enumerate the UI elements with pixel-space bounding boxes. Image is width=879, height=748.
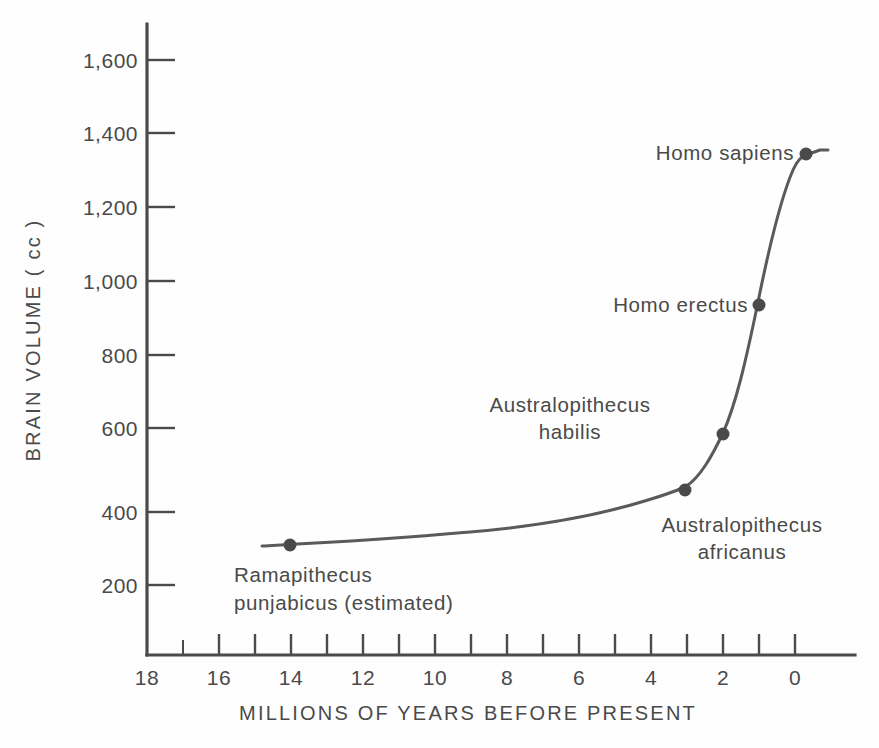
data-point-homo-sapiens [800, 148, 813, 161]
x-tick-label-18: 18 [135, 666, 159, 689]
x-tick-label-14: 14 [279, 666, 303, 689]
data-point-homo-erectus [753, 299, 766, 312]
brain-volume-curve [262, 150, 828, 546]
annotation-ramapithecus: Ramapithecus punjabicus (estimated) [234, 563, 453, 614]
y-tick-label-1400: 1,400 [83, 122, 138, 145]
data-point-markers [284, 148, 813, 552]
x-tick-label-12: 12 [351, 666, 375, 689]
annotation-australopithecus-africanus: Australopithecus africanus [661, 513, 822, 563]
x-axis-ticks [183, 634, 795, 655]
y-tick-label-1200: 1,200 [83, 196, 138, 219]
annotation-ramapithecus-line2: punjabicus (estimated) [234, 591, 453, 614]
data-point-australopithecus-africanus [679, 484, 692, 497]
y-tick-label-600: 600 [101, 417, 138, 440]
x-tick-label-2: 2 [717, 666, 729, 689]
annotation-australopithecus-africanus-line1: Australopithecus [661, 513, 822, 536]
data-point-australopithecus-habilis [717, 428, 730, 441]
annotation-australopithecus-habilis-line2: habilis [539, 420, 601, 443]
y-tick-label-800: 800 [101, 344, 138, 367]
y-tick-label-200: 200 [101, 574, 138, 597]
data-point-ramapithecus [284, 539, 297, 552]
annotation-ramapithecus-line1: Ramapithecus [234, 563, 372, 586]
y-axis-ticks [147, 60, 175, 585]
annotation-homo-sapiens: Homo sapiens [656, 141, 794, 164]
y-tick-label-1600: 1,600 [83, 49, 138, 72]
x-tick-label-4: 4 [645, 666, 657, 689]
x-axis-title: MILLIONS OF YEARS BEFORE PRESENT [239, 702, 697, 724]
annotation-australopithecus-habilis: Australopithecus habilis [489, 393, 650, 443]
y-axis-tick-labels: 1,600 1,400 1,200 1,000 800 600 400 200 [83, 49, 138, 597]
y-tick-label-400: 400 [101, 501, 138, 524]
x-tick-label-0: 0 [789, 666, 801, 689]
brain-volume-chart: 1,600 1,400 1,200 1,000 800 600 400 200 … [0, 0, 879, 748]
annotation-australopithecus-habilis-line1: Australopithecus [489, 393, 650, 416]
y-axis-title: BRAIN VOLUME ( cc ) [22, 219, 44, 462]
y-tick-label-1000: 1,000 [83, 270, 138, 293]
annotation-australopithecus-africanus-line2: africanus [698, 540, 787, 563]
x-tick-label-10: 10 [423, 666, 447, 689]
x-tick-label-8: 8 [501, 666, 513, 689]
x-axis-tick-labels: 18 16 14 12 10 8 6 4 2 0 [135, 666, 801, 689]
annotation-homo-erectus: Homo erectus [613, 293, 748, 316]
x-tick-label-16: 16 [207, 666, 231, 689]
x-tick-label-6: 6 [573, 666, 585, 689]
